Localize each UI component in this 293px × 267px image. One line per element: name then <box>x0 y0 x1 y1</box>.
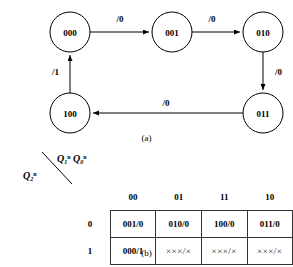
state-node-010: 010 <box>243 12 283 52</box>
state-node-000: 000 <box>50 12 90 52</box>
column-header-10: 10 <box>247 184 292 211</box>
edge-001-to-010: /0 <box>192 14 240 32</box>
cell-r0-c00: 001/0 <box>110 211 156 238</box>
figure-root: /0 /0 /0 /0 /1 <box>0 0 293 267</box>
cell-r0-c01: 010/0 <box>156 211 202 238</box>
edge-label-010-011: /0 <box>274 67 283 77</box>
state-node-011: 011 <box>243 93 283 133</box>
caption-b: (b) <box>0 248 293 258</box>
svg-text:001: 001 <box>165 28 179 38</box>
edge-010-to-011: /0 <box>263 52 283 90</box>
state-node-100: 100 <box>50 93 90 133</box>
header-spacer <box>70 184 110 211</box>
edge-label-100-000: /1 <box>51 67 60 77</box>
edge-label-001-010: /0 <box>207 14 216 24</box>
svg-text:010: 010 <box>256 28 270 38</box>
table-column-header-row: 00 01 11 10 <box>70 184 293 211</box>
edge-label-000-001: /0 <box>115 14 124 24</box>
row-axis-label: Q2n <box>23 170 37 182</box>
state-transition-diagram: /0 /0 /0 /0 /1 <box>0 0 293 145</box>
cell-r0-c10: 011/0 <box>247 211 292 238</box>
cell-r0-c11: 100/0 <box>201 211 247 238</box>
svg-text:100: 100 <box>63 109 77 119</box>
table-row: 0 001/0 010/0 100/0 011/0 <box>70 211 293 238</box>
state-table-section: Q1n Q0n Q2n 00 01 11 10 0 001/0 010/0 10… <box>0 152 293 246</box>
column-header-01: 01 <box>156 184 202 211</box>
column-header-11: 11 <box>201 184 247 211</box>
row-header-0: 0 <box>70 211 110 238</box>
column-header-00: 00 <box>110 184 156 211</box>
edge-label-011-100: /0 <box>161 98 170 108</box>
edge-100-to-000: /1 <box>51 55 70 93</box>
edge-000-to-001: /0 <box>90 14 149 32</box>
col-axis-sup1: n <box>67 154 70 160</box>
svg-text:000: 000 <box>63 28 77 38</box>
svg-text:011: 011 <box>256 109 270 119</box>
row-axis-sup: n <box>33 171 36 177</box>
column-axis-label: Q1n Q0n <box>57 153 87 165</box>
edge-011-to-100: /0 <box>93 98 243 113</box>
caption-a: (a) <box>0 133 293 143</box>
state-node-001: 001 <box>152 12 192 52</box>
col-axis-sup2: n <box>83 154 86 160</box>
